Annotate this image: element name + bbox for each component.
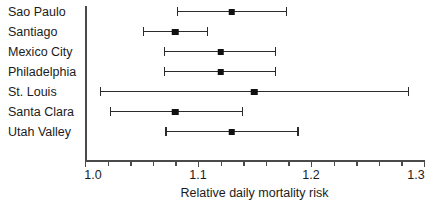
x-axis-tick-label: 1.1 (189, 168, 206, 182)
estimate-marker (172, 109, 179, 116)
x-axis-major-tick (198, 160, 199, 167)
x-axis-major-tick (85, 160, 86, 167)
x-axis-minor-tick (130, 160, 131, 166)
estimate-marker (217, 69, 224, 76)
x-axis-minor-tick (243, 160, 244, 166)
x-axis-minor-tick (401, 160, 402, 166)
x-axis-minor-tick (379, 160, 380, 166)
category-label-list: Sao PauloSantiagoMexico CityPhiladelphia… (0, 0, 80, 160)
category-label: Santiago (0, 25, 74, 39)
confidence-interval-row (164, 46, 276, 58)
x-axis-major-tick (424, 160, 425, 167)
ci-upper-cap (297, 127, 298, 136)
x-axis-minor-tick (108, 160, 109, 166)
forest-plot: Sao PauloSantiagoMexico CityPhiladelphia… (0, 0, 440, 207)
estimate-marker (172, 29, 179, 36)
confidence-interval-row (100, 86, 410, 98)
confidence-interval-row (177, 6, 288, 18)
x-axis-minor-tick (334, 160, 335, 166)
x-axis-tick-label: 1.2 (302, 168, 319, 182)
ci-lower-cap (143, 27, 144, 36)
category-label: St. Louis (0, 85, 74, 99)
category-label: Utah Valley (0, 125, 74, 139)
plot-area (85, 0, 424, 160)
ci-upper-cap (242, 107, 243, 116)
ci-upper-cap (408, 87, 409, 96)
x-axis-minor-tick (153, 160, 154, 166)
x-axis-minor-tick (221, 160, 222, 166)
category-label: Philadelphia (0, 65, 74, 79)
x-axis-major-tick (311, 160, 312, 167)
ci-lower-cap (165, 127, 166, 136)
x-axis-tick-label: 1.0 (84, 168, 101, 182)
confidence-interval-row (165, 126, 298, 138)
category-label: Mexico City (0, 45, 74, 59)
x-axis-minor-tick (175, 160, 176, 166)
ci-lower-cap (100, 87, 101, 96)
x-axis-minor-tick (356, 160, 357, 166)
estimate-marker (251, 89, 258, 96)
x-axis-tick-label: 1.3 (407, 168, 424, 182)
x-axis-title: Relative daily mortality risk (85, 186, 424, 200)
category-label: Sao Paulo (0, 5, 74, 19)
estimate-marker (229, 9, 236, 16)
confidence-interval-row (143, 26, 209, 38)
confidence-interval-row (110, 106, 243, 118)
ci-upper-cap (275, 47, 276, 56)
ci-lower-cap (164, 47, 165, 56)
estimate-marker (217, 49, 224, 56)
ci-upper-cap (286, 7, 287, 16)
x-axis-minor-tick (266, 160, 267, 166)
x-axis: Relative daily mortality risk 1.01.11.21… (85, 160, 424, 206)
confidence-interval-row (164, 66, 276, 78)
y-axis-line (85, 6, 87, 160)
x-axis-minor-tick (288, 160, 289, 166)
estimate-marker (229, 129, 236, 136)
ci-lower-cap (110, 107, 111, 116)
ci-upper-cap (207, 27, 208, 36)
x-axis-line (85, 160, 424, 162)
category-label: Santa Clara (0, 105, 74, 119)
ci-lower-cap (177, 7, 178, 16)
ci-lower-cap (164, 67, 165, 76)
ci-upper-cap (275, 67, 276, 76)
